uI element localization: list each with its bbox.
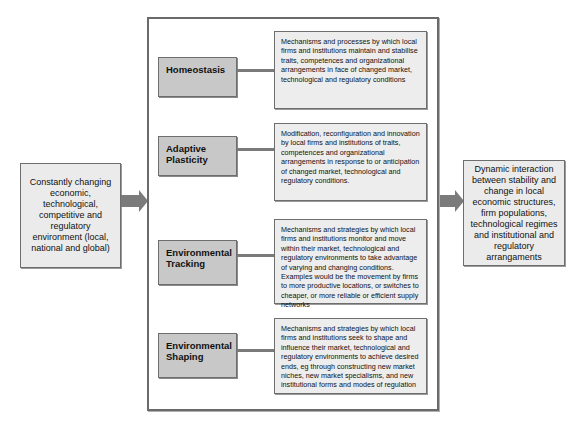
output-dynamics-box: Dynamic interaction between stability an… bbox=[463, 160, 565, 266]
mechanism-description-homeostasis: Mechanisms and processes by which local … bbox=[274, 31, 427, 109]
connector-line bbox=[237, 148, 274, 151]
mechanism-label-adaptive-plasticity: Adaptive Plasticity bbox=[158, 136, 237, 176]
mechanism-description-text: Mechanisms and strategies by which local… bbox=[281, 225, 419, 309]
connector-line bbox=[237, 349, 274, 352]
mechanism-description-adaptive-plasticity: Modification, reconfiguration and innova… bbox=[274, 123, 427, 201]
mechanism-description-environmental-shaping: Mechanisms and strategies by which local… bbox=[274, 318, 427, 394]
mechanism-description-environmental-tracking: Mechanisms and strategies by which local… bbox=[274, 219, 427, 304]
mechanism-label-homeostasis: Homeostasis bbox=[158, 57, 237, 97]
mechanism-description-text: Mechanisms and strategies by which local… bbox=[281, 324, 418, 389]
connector-line bbox=[237, 254, 274, 257]
mechanism-label-environmental-tracking: Environmental Tracking bbox=[158, 240, 237, 285]
mechanism-label-text: Homeostasis bbox=[166, 64, 225, 75]
mechanism-label-text: Environmental Tracking bbox=[166, 247, 232, 269]
mechanism-description-text: Modification, reconfiguration and innova… bbox=[281, 129, 420, 185]
mechanism-label-text: Environmental Shaping bbox=[166, 340, 232, 362]
input-environment-text: Constantly changing economic, technologi… bbox=[25, 177, 116, 254]
output-dynamics-text: Dynamic interaction between stability an… bbox=[468, 164, 560, 263]
mechanism-label-environmental-shaping: Environmental Shaping bbox=[158, 333, 237, 378]
mechanism-label-text: Adaptive Plasticity bbox=[166, 143, 208, 165]
mechanism-description-text: Mechanisms and processes by which local … bbox=[281, 37, 418, 84]
input-environment-box: Constantly changing economic, technologi… bbox=[20, 163, 121, 268]
connector-line bbox=[237, 69, 274, 72]
